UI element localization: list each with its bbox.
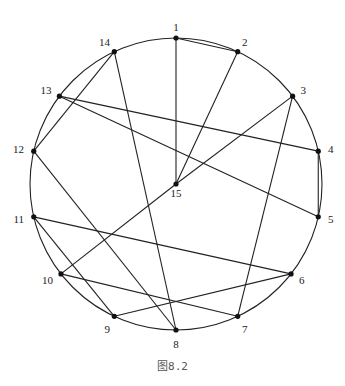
edge-3-15 bbox=[176, 96, 293, 184]
node-label-9: 9 bbox=[105, 323, 111, 335]
node-label-13: 13 bbox=[40, 84, 52, 96]
edge-13-5 bbox=[59, 96, 318, 217]
node-12 bbox=[31, 149, 36, 154]
figure-caption: 图8.2 bbox=[0, 357, 345, 373]
node-4 bbox=[316, 149, 321, 154]
graph-diagram: 123456789101112131415 bbox=[0, 0, 345, 386]
node-9 bbox=[112, 314, 117, 319]
node-label-14: 14 bbox=[99, 36, 111, 48]
edge-13-4 bbox=[59, 96, 318, 151]
edge-10-7 bbox=[61, 274, 238, 316]
node-3 bbox=[290, 94, 295, 99]
edge-9-6 bbox=[114, 274, 291, 316]
node-8 bbox=[173, 327, 178, 332]
node-2 bbox=[235, 49, 240, 54]
edge-2-15 bbox=[176, 52, 238, 184]
node-13 bbox=[57, 94, 62, 99]
node-1 bbox=[173, 35, 178, 40]
node-label-11: 11 bbox=[13, 213, 24, 225]
node-10 bbox=[58, 271, 63, 276]
node-label-15: 15 bbox=[171, 187, 183, 199]
edge-3-7 bbox=[238, 96, 293, 316]
node-label-2: 2 bbox=[242, 36, 248, 48]
node-6 bbox=[288, 271, 293, 276]
node-label-6: 6 bbox=[299, 274, 305, 286]
edge-1-2 bbox=[176, 38, 238, 52]
node-label-10: 10 bbox=[42, 274, 54, 286]
node-5 bbox=[316, 214, 321, 219]
edge-15-10 bbox=[61, 184, 176, 274]
node-label-3: 3 bbox=[301, 84, 307, 96]
node-label-4: 4 bbox=[328, 143, 334, 155]
edge-14-12 bbox=[34, 52, 115, 151]
node-7 bbox=[235, 314, 240, 319]
node-15 bbox=[173, 181, 178, 186]
node-label-1: 1 bbox=[173, 21, 179, 33]
node-label-8: 8 bbox=[173, 338, 179, 350]
node-label-12: 12 bbox=[13, 143, 24, 155]
edge-12-8 bbox=[34, 151, 176, 330]
node-14 bbox=[112, 49, 117, 54]
node-label-5: 5 bbox=[328, 213, 334, 225]
node-11 bbox=[31, 214, 36, 219]
node-label-7: 7 bbox=[242, 323, 248, 335]
